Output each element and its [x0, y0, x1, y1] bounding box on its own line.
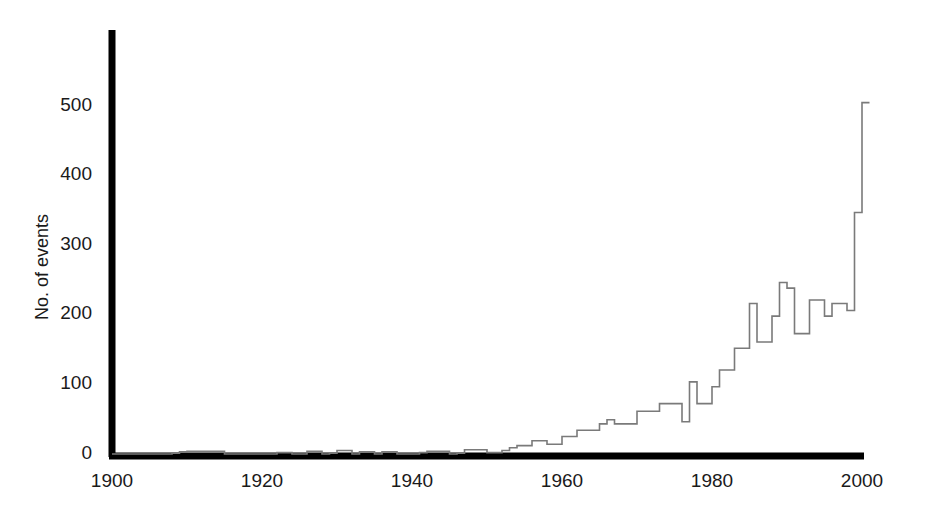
- x-tick-label-1920: 1920: [241, 470, 283, 492]
- x-tick-label-1980: 1980: [691, 470, 733, 492]
- y-tick-label-0: 0: [20, 442, 92, 464]
- y-axis-title: No. of events: [32, 214, 53, 320]
- y-tick-label-200: 200: [20, 302, 92, 324]
- y-tick-label-500: 500: [20, 94, 92, 116]
- x-tick-label-1960: 1960: [541, 470, 583, 492]
- x-tick-label-2000: 2000: [841, 470, 883, 492]
- y-tick-label-400: 400: [20, 163, 92, 185]
- y-tick-label-300: 300: [20, 233, 92, 255]
- chart-plot-area: [0, 0, 935, 515]
- x-tick-label-1900: 1900: [91, 470, 133, 492]
- x-tick-label-1940: 1940: [391, 470, 433, 492]
- chart-figure: 0 100 200 300 400 500 1900 1920 1940 196…: [0, 0, 935, 515]
- y-tick-label-100: 100: [20, 372, 92, 394]
- data-series-line: [112, 103, 870, 454]
